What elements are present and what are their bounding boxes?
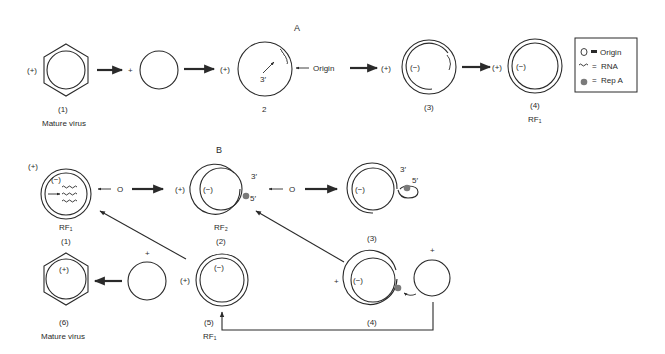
strand-label-inner: (−) <box>516 62 526 71</box>
strand-label: (+) <box>59 265 69 274</box>
step-caption: RF₁ <box>59 223 73 232</box>
b1-rf1: (+) (−) RF₁ (1) O <box>28 162 123 246</box>
ssdna-circle-icon <box>140 51 178 89</box>
end-label-3prime: 3′ <box>400 165 406 174</box>
arrow-icon <box>100 211 186 259</box>
rep-a-dot-icon <box>395 285 402 292</box>
a1-mature-virus: (+) (1) Mature virus <box>27 44 88 128</box>
strand-label-outer: (+) <box>381 64 391 73</box>
b5b-single-strand: + <box>128 249 166 300</box>
ssdna-circle-icon <box>128 262 166 300</box>
strand-label-outer: (+) <box>28 162 38 171</box>
strand-label-outer: (+) <box>175 185 185 194</box>
step-caption: RF₂ <box>214 223 228 232</box>
legend-connector: = <box>592 76 597 85</box>
step-number: (3) <box>424 103 434 112</box>
step-number: (4) <box>367 318 377 327</box>
legend-label: Rep A <box>601 76 623 85</box>
step-number: (1) <box>61 237 71 246</box>
legend: Origin = RNA = Rep A <box>575 38 637 92</box>
a2-primed-circle: (+) 3′ 2 Origin <box>220 42 334 114</box>
strand-label: (+) <box>27 66 37 75</box>
capsid-hexagon-icon <box>44 253 88 305</box>
strand-label-inner: (−) <box>214 263 224 272</box>
strand-label-inner: (−) <box>355 185 365 194</box>
step-caption: Mature virus <box>41 332 85 341</box>
end-label-3prime: 3′ <box>251 172 257 181</box>
strand-label-inner: (−) <box>410 63 420 72</box>
rep-a-dot-icon <box>404 185 411 192</box>
end-label-3prime: 3′ <box>260 75 266 84</box>
released-ssdna-circle-icon <box>414 260 450 296</box>
end-label-5prime: 5′ <box>250 194 256 203</box>
step-caption: RF₁ <box>528 115 542 124</box>
origin-label: Origin <box>313 64 334 73</box>
step-caption: RF₁ <box>203 332 217 341</box>
legend-connector: = <box>592 62 597 71</box>
ligation-arrow-icon <box>404 293 416 295</box>
legend-label: Origin <box>600 48 621 57</box>
arrow-icon <box>263 62 274 73</box>
step-number: (3) <box>367 234 377 243</box>
legend-label: RNA <box>601 62 619 71</box>
step-number: (5) <box>204 318 214 327</box>
a1b-single-strand: + <box>128 51 178 89</box>
strand-label-outer: (+) <box>180 276 190 285</box>
step-caption: Mature virus <box>42 119 86 128</box>
section-label-a: A <box>294 23 300 33</box>
strand-label-outer: (+) <box>492 63 502 72</box>
end-label-5prime: 5′ <box>412 176 418 185</box>
a3-elongation: (+) (−) (3) <box>381 40 456 112</box>
strand-label-inner: (−) <box>203 185 213 194</box>
rna-primer-icon <box>280 49 288 64</box>
strand-label-inner: (−) <box>353 276 363 285</box>
strand-label: + <box>128 66 133 75</box>
rep-a-dot-icon <box>581 79 588 86</box>
origin-label: O <box>289 185 295 194</box>
rna-wave-icon <box>62 193 77 195</box>
b2-rf2: (+) (−) 3′ 5′ RF₂ (2) O <box>175 164 295 246</box>
genome-circle-icon <box>47 51 85 89</box>
replication-diagram: A (+) (1) Mature virus + (+) 3′ 2 Origin… <box>0 0 665 354</box>
step-number: (6) <box>59 318 69 327</box>
b5-rf1: (+) (−) (5) RF₁ <box>180 254 248 341</box>
ssdna-circle-icon <box>238 42 292 96</box>
capsid-hexagon-icon <box>44 44 88 96</box>
dash-icon <box>591 50 597 53</box>
rna-wave-icon <box>62 200 77 202</box>
strand-label: + <box>145 249 150 258</box>
strand-label-outer: + <box>334 277 339 286</box>
a4-rf1: (+) (−) (4) RF₁ <box>492 39 562 124</box>
section-label-b: B <box>216 145 222 155</box>
step-number: (1) <box>58 105 68 114</box>
origin-label: O <box>117 185 123 194</box>
return-arrow-icon <box>222 302 433 330</box>
rna-wave-icon <box>62 186 77 188</box>
step-number: 2 <box>262 105 267 114</box>
step-number: (4) <box>530 101 540 110</box>
rna-primer-icon <box>447 55 451 70</box>
strand-label-inner: (−) <box>51 175 61 184</box>
plus-strand-circle-icon <box>196 254 248 306</box>
strand-label: (+) <box>220 65 230 74</box>
b3-rolling-circle: (−) 3′ 5′ (3) <box>347 163 418 243</box>
rep-a-dot-icon <box>243 193 250 200</box>
strand-label-free: + <box>430 246 435 255</box>
arrow-icon <box>256 211 344 262</box>
b6-mature-virus: (+) (6) Mature virus <box>41 253 88 341</box>
step-number: (2) <box>216 237 226 246</box>
